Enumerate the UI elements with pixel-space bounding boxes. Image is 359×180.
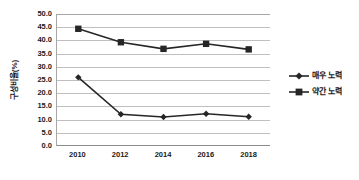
plot-area xyxy=(56,14,270,146)
legend-square-marker-icon xyxy=(288,86,310,98)
x-axis-tick: 2018 xyxy=(240,150,257,160)
data-point-square xyxy=(203,41,209,47)
series-line xyxy=(78,77,248,117)
data-point-diamond xyxy=(160,114,166,120)
data-point-square xyxy=(118,39,124,45)
x-axis-tick: 2016 xyxy=(197,150,214,160)
y-axis-tick: 50.0 xyxy=(22,10,52,18)
y-axis-tick: 40.0 xyxy=(22,36,52,44)
data-point-square xyxy=(160,46,166,52)
x-axis-tick: 2010 xyxy=(69,150,86,160)
y-axis-tick: 15.0 xyxy=(22,102,52,110)
data-point-diamond xyxy=(246,114,252,120)
legend-label: 약간 노력 xyxy=(312,86,342,98)
line-chart: 구성비율(%) 50.045.040.035.030.025.020.015.0… xyxy=(0,0,359,180)
y-axis-tick: 0.0 xyxy=(22,142,52,150)
y-axis-title: 구성비율(%) xyxy=(8,38,22,122)
y-axis-tick: 25.0 xyxy=(22,76,52,84)
x-axis-tick: 2012 xyxy=(112,150,129,160)
data-point-diamond xyxy=(203,111,209,117)
series-layer xyxy=(57,14,270,146)
legend-label: 매우 노력 xyxy=(312,70,342,82)
legend-diamond-marker-icon xyxy=(288,70,310,82)
y-axis-tick-labels: 50.045.040.035.030.025.020.015.010.05.00… xyxy=(22,14,52,146)
y-axis-tick: 30.0 xyxy=(22,63,52,71)
y-axis-tick: 5.0 xyxy=(22,129,52,137)
legend: 매우 노력약간 노력 xyxy=(288,68,358,100)
y-axis-tick: 45.0 xyxy=(22,23,52,31)
x-axis-tick: 2014 xyxy=(155,150,172,160)
data-point-square xyxy=(75,26,81,32)
x-axis-tick-labels: 20102012201420162018 xyxy=(56,150,270,164)
y-axis-tick: 10.0 xyxy=(22,116,52,124)
legend-entry[interactable]: 약간 노력 xyxy=(288,84,358,100)
data-point-square xyxy=(246,46,252,52)
y-axis-tick: 20.0 xyxy=(22,89,52,97)
legend-entry[interactable]: 매우 노력 xyxy=(288,68,358,84)
y-axis-tick: 35.0 xyxy=(22,50,52,58)
